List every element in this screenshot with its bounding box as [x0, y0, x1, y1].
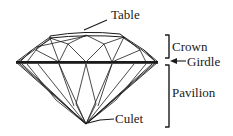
- culet-label: Culet: [115, 112, 143, 125]
- crown-outline: [16, 37, 158, 62]
- crown-label: Crown: [172, 40, 207, 53]
- girdle-label: Girdle: [187, 55, 220, 68]
- table-leader-line: [84, 20, 107, 30]
- diamond-diagram: Table Crown Girdle Pavilion Culet: [0, 0, 233, 136]
- table-label: Table: [111, 8, 140, 21]
- crown-facets: [20, 35, 156, 62]
- girdle-arrow-icon: [170, 58, 186, 64]
- pavilion-bracket: [165, 65, 169, 127]
- girdle-line: [16, 62, 158, 64]
- crown-bracket: [165, 35, 169, 58]
- pavilion-label: Pavilion: [172, 86, 215, 99]
